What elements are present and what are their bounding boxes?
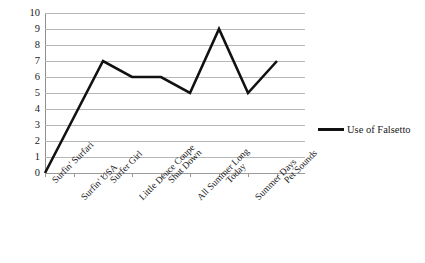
x-axis-tick bbox=[103, 173, 104, 177]
y-axis-tick-label: 5 bbox=[10, 88, 40, 98]
x-axis-category-label: Surfin' Surfari bbox=[50, 178, 58, 186]
legend-line-swatch bbox=[318, 128, 344, 131]
plot-area bbox=[45, 13, 305, 173]
y-axis-tick-label: 4 bbox=[10, 104, 40, 114]
x-axis-tick bbox=[190, 173, 191, 177]
x-axis-tick bbox=[161, 173, 162, 177]
data-series-svg bbox=[45, 13, 305, 173]
y-axis-tick-label: 9 bbox=[10, 24, 40, 34]
x-axis-tick bbox=[74, 173, 75, 177]
x-axis-tick bbox=[45, 173, 46, 177]
x-axis-category-label: All Summer Long bbox=[195, 195, 203, 203]
series-line-use-of-falsetto bbox=[45, 29, 277, 173]
x-axis-tick bbox=[248, 173, 249, 177]
x-axis-category-label: Today bbox=[224, 178, 232, 186]
y-axis-tick-label: 2 bbox=[10, 136, 40, 146]
x-axis-category-label: Surfer Girl bbox=[108, 178, 116, 186]
y-axis-tick-label: 7 bbox=[10, 56, 40, 66]
x-axis-category-label: Shut Down bbox=[166, 178, 174, 186]
y-axis-tick-label: 0 bbox=[10, 168, 40, 178]
y-axis-labels: 109876543210 bbox=[8, 13, 40, 173]
x-axis-category-label: Surfin' USA bbox=[79, 195, 87, 203]
x-axis-category-label: Summer Days bbox=[253, 195, 261, 203]
y-axis-tick-label: 3 bbox=[10, 120, 40, 130]
y-axis-tick-label: 10 bbox=[10, 8, 40, 18]
y-axis-tick-label: 1 bbox=[10, 152, 40, 162]
x-axis-tick bbox=[132, 173, 133, 177]
x-axis-category-label: Pet Sounds bbox=[282, 178, 290, 186]
y-axis-tick-label: 8 bbox=[10, 40, 40, 50]
x-axis-tick bbox=[219, 173, 220, 177]
legend-label: Use of Falsetto bbox=[347, 124, 411, 135]
line-chart: 109876543210 Surfin' SurfariSurfin' USAS… bbox=[0, 0, 425, 263]
x-axis-category-label: Little Deuce Coupe bbox=[137, 195, 145, 203]
x-axis-tick bbox=[277, 173, 278, 177]
y-axis-tick-label: 6 bbox=[10, 72, 40, 82]
chart-legend: Use of Falsetto bbox=[318, 124, 411, 135]
x-axis-ticks bbox=[45, 173, 305, 178]
